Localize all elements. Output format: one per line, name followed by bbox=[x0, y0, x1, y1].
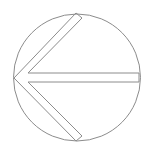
outer-circle bbox=[14, 14, 141, 141]
arrow-circle-diagram bbox=[0, 0, 151, 155]
left-arrow-circle-icon bbox=[0, 0, 151, 155]
